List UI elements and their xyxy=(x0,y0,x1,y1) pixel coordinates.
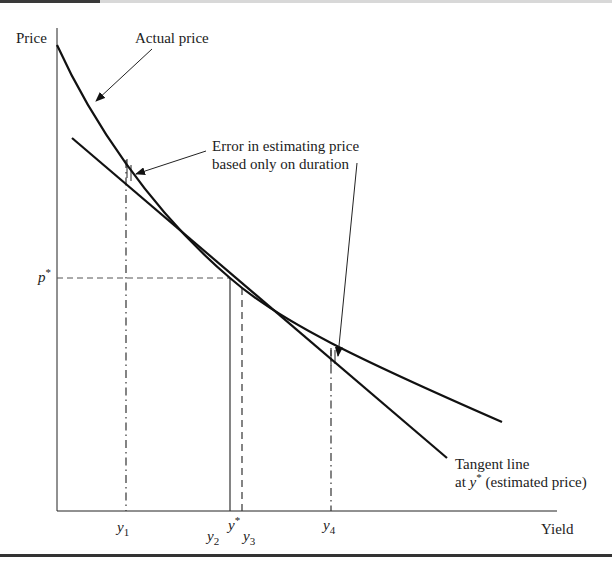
y-axis-label: Price xyxy=(16,29,47,47)
error-label-line2: based only on duration xyxy=(212,155,349,173)
tick-y1: y1 xyxy=(117,518,129,537)
error-arrow-right xyxy=(338,163,357,356)
error-arrow-left xyxy=(136,151,206,174)
tick-y2: y2 xyxy=(207,527,219,546)
tangent-label-line2: at y* (estimated price) xyxy=(455,473,587,492)
actual-price-label: Actual price xyxy=(135,29,209,47)
p-star-label: p* xyxy=(38,268,51,287)
tangent-label-line1: Tangent line xyxy=(455,455,529,473)
tick-y-star: y* xyxy=(228,516,240,535)
bottom-rule xyxy=(0,554,612,557)
actual-price-arrow xyxy=(96,49,152,101)
x-axis-label: Yield xyxy=(541,520,574,538)
error-label-line1: Error in estimating price xyxy=(212,137,359,155)
tick-y4: y4 xyxy=(323,516,335,535)
tick-y3: y3 xyxy=(243,527,255,546)
tangent-line xyxy=(72,138,447,458)
actual-price-curve xyxy=(57,45,502,422)
